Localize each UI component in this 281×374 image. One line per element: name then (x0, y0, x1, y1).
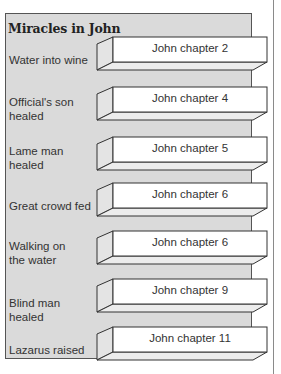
chapter-reference: John chapter 6 (113, 233, 267, 251)
chapter-block: John chapter 5 (97, 137, 269, 173)
chapter-block: John chapter 4 (97, 87, 269, 123)
chapter-reference: John chapter 2 (113, 39, 267, 57)
miracle-label: Official's son healed (9, 95, 97, 123)
chapter-reference: John chapter 9 (113, 281, 267, 299)
page-margin-rule (273, 0, 274, 374)
chapter-reference: John chapter 11 (113, 329, 267, 347)
miracle-label: Blind man healed (9, 296, 97, 324)
miracle-label: Lame man healed (9, 144, 97, 172)
chapter-block: John chapter 2 (97, 37, 269, 73)
miracle-label: Walking on the water (9, 239, 97, 267)
chapter-block: John chapter 11 (97, 327, 269, 363)
chapter-block: John chapter 6 (97, 183, 269, 219)
panel-title: Miracles in John (8, 21, 120, 36)
chapter-reference: John chapter 6 (113, 185, 267, 203)
miracle-label: Water into wine (9, 53, 97, 67)
chapter-reference: John chapter 5 (113, 139, 267, 157)
chapter-reference: John chapter 4 (113, 89, 267, 107)
chapter-block: John chapter 6 (97, 231, 269, 267)
miracle-label: Lazarus raised (9, 343, 97, 357)
chapter-block: John chapter 9 (97, 279, 269, 315)
miracle-label: Great crowd fed (9, 199, 97, 213)
